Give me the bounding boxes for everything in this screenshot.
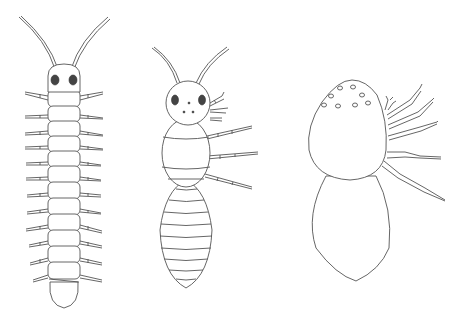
centipede-eye-right — [69, 75, 77, 85]
centipede-figure — [19, 16, 110, 308]
illustration-canvas — [0, 0, 466, 318]
termite-head — [166, 81, 210, 125]
centipede-body — [48, 90, 80, 308]
spider-abdomen — [312, 176, 390, 281]
termite-eye-right — [199, 95, 206, 105]
centipede-head — [48, 64, 80, 92]
spider-cephalothorax — [309, 80, 387, 180]
termite-eye-left — [172, 95, 179, 105]
termite-figure — [152, 47, 258, 288]
spider-legs — [382, 84, 445, 201]
arthropods-illustration — [0, 0, 466, 318]
termite-thorax — [162, 119, 210, 187]
centipede-eye-left — [51, 75, 59, 85]
spider-figure — [309, 80, 445, 281]
